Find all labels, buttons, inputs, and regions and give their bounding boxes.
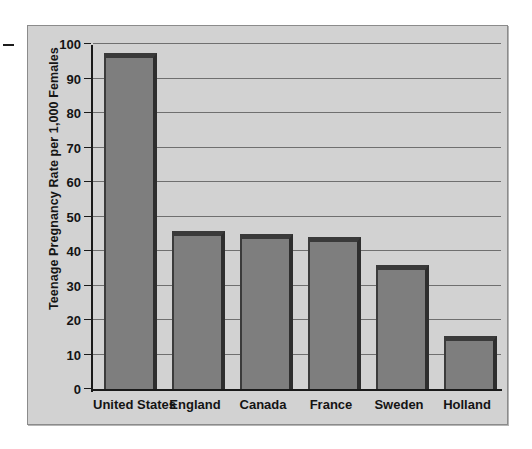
x-axis-label-united-states: United States	[93, 397, 161, 412]
y-axis-tick-label: 0	[74, 382, 81, 397]
y-axis-tick-label: 20	[67, 313, 81, 328]
x-axis-label-england: England	[161, 397, 229, 412]
y-axis-tick-mark	[84, 78, 91, 79]
y-axis-tick-label: 100	[59, 37, 81, 52]
bar-england[interactable]	[172, 231, 225, 389]
bar-france[interactable]	[308, 237, 361, 389]
y-axis-tick-mark	[84, 112, 91, 113]
y-axis-title: Teenage Pregnancy Rate per 1,000 Females	[47, 60, 61, 310]
left-edge-tick-mark	[3, 44, 14, 46]
y-axis-tick-label: 40	[67, 244, 81, 259]
y-axis-tick-label: 30	[67, 278, 81, 293]
y-axis-tick-label: 70	[67, 140, 81, 155]
y-axis-tick-mark	[84, 147, 91, 148]
x-axis-label-france: France	[297, 397, 365, 412]
y-axis-tick-label: 90	[67, 71, 81, 86]
y-axis-tick-mark	[84, 216, 91, 217]
chart-page: Teenage Pregnancy Rate per 1,000 Females…	[0, 0, 532, 449]
y-axis-tick-label: 60	[67, 175, 81, 190]
y-axis-tick-mark	[84, 388, 91, 389]
bar-united-states[interactable]	[104, 53, 157, 389]
y-axis-tick-mark	[84, 181, 91, 182]
y-axis-tick-mark	[84, 285, 91, 286]
y-axis-tick-mark	[84, 354, 91, 355]
bar-sweden[interactable]	[376, 265, 429, 389]
x-axis-label-sweden: Sweden	[365, 397, 433, 412]
y-axis-tick-label: 50	[67, 209, 81, 224]
x-axis-label-holland: Holland	[433, 397, 501, 412]
bars-group	[93, 44, 501, 389]
bar-canada[interactable]	[240, 234, 293, 389]
y-axis-tick-label: 80	[67, 106, 81, 121]
y-axis-tick-mark	[84, 319, 91, 320]
y-axis-tick-mark	[84, 43, 91, 44]
plot-area: 0102030405060708090100 United StatesEngl…	[91, 45, 501, 391]
bar-holland[interactable]	[444, 336, 497, 389]
x-axis-line	[91, 389, 502, 391]
x-axis-label-canada: Canada	[229, 397, 297, 412]
y-axis-tick-mark	[84, 250, 91, 251]
x-axis-labels-group: United StatesEnglandCanadaFranceSwedenHo…	[93, 397, 501, 419]
figure-frame: Teenage Pregnancy Rate per 1,000 Females…	[27, 25, 508, 425]
y-axis-tick-label: 10	[67, 347, 81, 362]
